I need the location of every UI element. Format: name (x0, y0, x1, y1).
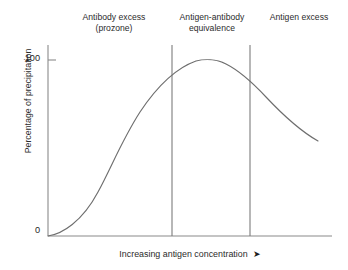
zone-label-antibody-excess: Antibody excess (prozone) (62, 12, 166, 34)
precipitation-curve (48, 60, 318, 236)
zone-label-antigen-excess: Antigen excess (256, 12, 342, 23)
x-axis-title: Increasing antigen concentration (119, 249, 247, 259)
x-axis-title-group: Increasing antigen concentration ➤ (48, 249, 332, 259)
precipitin-curve-figure: Antibody excess (prozone) Antigen-antibo… (0, 0, 348, 270)
zone-label-equivalence: Antigen-antibody equivalence (168, 12, 256, 34)
y-axis-title: Percentage of precipitation (23, 21, 33, 181)
y-tick-label-0: 0 (14, 225, 40, 235)
y-tick-label-100: 100 (6, 53, 40, 63)
arrow-right-icon: ➤ (253, 249, 261, 258)
chart-plot-area (0, 0, 348, 270)
